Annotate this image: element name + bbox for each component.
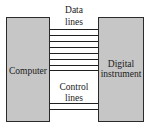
data-line xyxy=(50,53,98,54)
data-line xyxy=(50,29,98,30)
control-lines-caption-line1: Control xyxy=(50,82,98,92)
control-line xyxy=(50,103,98,104)
data-lines-caption-line1: Data xyxy=(50,5,98,15)
data-line xyxy=(50,65,98,66)
data-line xyxy=(50,47,98,48)
data-line xyxy=(50,35,98,36)
digital-instrument-label-line1: Digital xyxy=(99,59,143,69)
control-line xyxy=(50,109,98,110)
computer-block: Computer xyxy=(6,17,50,122)
data-lines-caption-line2: lines xyxy=(50,17,98,27)
control-lines-caption-line2: lines xyxy=(50,93,98,103)
digital-instrument-block: Digital instrument xyxy=(98,17,144,122)
data-line xyxy=(50,59,98,60)
computer-label: Computer xyxy=(5,66,51,76)
data-line xyxy=(50,41,98,42)
digital-instrument-label-line2: instrument xyxy=(98,69,144,79)
data-line xyxy=(50,70,98,71)
